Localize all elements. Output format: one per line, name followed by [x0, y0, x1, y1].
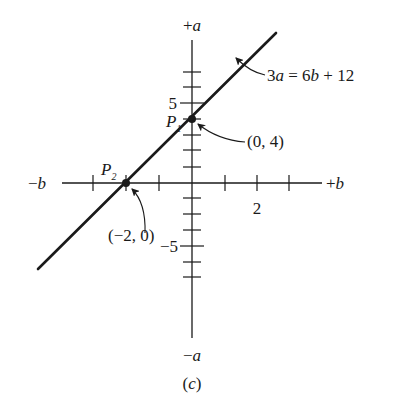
point-p2-dot: [122, 179, 130, 187]
a-tick-label-minus-5: −5: [160, 237, 178, 256]
point-p1-coords: (0, 4): [247, 132, 284, 151]
a-tick-label-5: 5: [169, 94, 178, 113]
figure-caption: (c): [183, 374, 202, 393]
equation-label: 3a = 6b + 12: [267, 66, 354, 85]
p1-leader-arrow: [198, 124, 245, 142]
equation-leader-arrow: [236, 58, 265, 75]
a-positive-label: +a: [183, 16, 201, 35]
coordinate-diagram: +a −a −b +b 5 −5 2 P1 P2 (0, 4) (−2, 0) …: [0, 0, 399, 393]
a-negative-label: −a: [183, 346, 201, 365]
equation-line: [38, 33, 276, 269]
point-p2-label: P2: [100, 160, 116, 182]
point-p1-dot: [188, 115, 196, 123]
b-tick-label-2: 2: [253, 199, 262, 218]
b-negative-label: −b: [28, 174, 46, 193]
point-p2-coords: (−2, 0): [108, 226, 154, 245]
point-p1-label: P1: [165, 112, 181, 134]
b-positive-label: +b: [326, 174, 344, 193]
